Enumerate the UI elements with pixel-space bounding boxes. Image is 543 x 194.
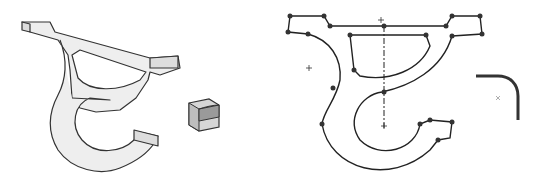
sketch-profile-view [270,0,500,194]
fillet-detail-view [470,70,530,130]
fillet-corner-icon [470,70,530,130]
sketch-profile-icon [270,0,500,194]
view-cube[interactable] [185,95,225,135]
view-cube-icon [185,95,225,135]
isometric-part-icon [0,0,200,194]
isometric-part-view [0,0,200,194]
